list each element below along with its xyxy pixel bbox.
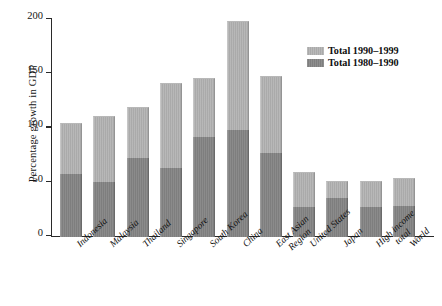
bar-segment-1990-1999 [160, 83, 182, 168]
legend-swatch-dark-icon [307, 59, 324, 67]
y-tick-150: 150 [46, 72, 52, 73]
y-axis-line [51, 18, 52, 237]
y-tick-100: 100 [46, 126, 52, 127]
legend-label-1990-1999: Total 1990–1999 [328, 45, 399, 56]
y-tick-label-100: 100 [27, 118, 43, 129]
bar-segment-1990-1999 [193, 78, 215, 138]
legend-item-1990-1999: Total 1990–1999 [307, 45, 399, 56]
legend-swatch-light-icon [307, 47, 324, 55]
bar-segment-1990-1999 [60, 123, 82, 174]
bar-chart: Percentage growth in GDP 050100150200 In… [0, 0, 442, 306]
bar-singapore[interactable] [160, 83, 182, 237]
bar-segment-1980-1990 [260, 153, 282, 237]
bar-indonesia[interactable] [60, 123, 82, 237]
y-tick-200: 200 [46, 18, 52, 19]
bar-china[interactable] [227, 21, 249, 237]
bar-segment-1980-1990 [60, 174, 82, 237]
bar-segment-1990-1999 [293, 172, 315, 207]
chart-legend: Total 1990–1999 Total 1980–1990 [307, 45, 399, 69]
legend-item-1980-1990: Total 1980–1990 [307, 57, 399, 68]
bar-segment-1990-1999 [326, 181, 348, 198]
y-tick-50: 50 [46, 181, 52, 182]
bar-segment-1990-1999 [227, 21, 249, 130]
y-tick-label-150: 150 [27, 64, 43, 75]
bar-segment-1990-1999 [260, 76, 282, 153]
y-tick-label-0: 0 [38, 227, 43, 238]
bar-thailand[interactable] [127, 107, 149, 237]
bar-segment-1990-1999 [127, 107, 149, 158]
y-tick-label-200: 200 [27, 10, 43, 21]
bar-segment-1990-1999 [393, 178, 415, 205]
bar-south-korea[interactable] [193, 78, 215, 237]
y-tick-0: 0 [46, 235, 52, 236]
y-tick-label-50: 50 [33, 173, 44, 184]
bar-segment-1990-1999 [93, 116, 115, 182]
bar-east-asian-region[interactable] [260, 76, 282, 237]
bar-high-income-total[interactable] [360, 181, 382, 237]
legend-label-1980-1990: Total 1980–1990 [328, 57, 399, 68]
bar-segment-1990-1999 [360, 181, 382, 207]
